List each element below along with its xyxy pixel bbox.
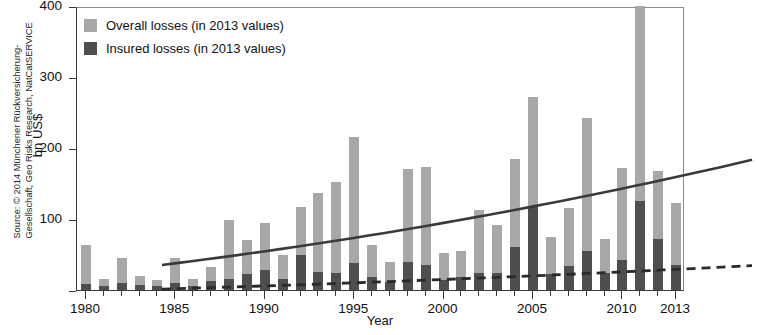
x-tick-minor xyxy=(121,291,122,296)
x-tick-minor xyxy=(460,291,461,296)
x-tick-major xyxy=(174,291,175,299)
y-tick-label: 200 xyxy=(8,140,62,155)
x-tick-minor xyxy=(210,291,211,296)
y-tick xyxy=(69,78,76,79)
legend-label-overall: Overall losses (in 2013 values) xyxy=(106,18,284,33)
x-tick-minor xyxy=(568,291,569,296)
x-tick-minor xyxy=(496,291,497,296)
x-tick-minor xyxy=(317,291,318,296)
insured-trend-line xyxy=(162,266,752,289)
x-tick-minor xyxy=(389,291,390,296)
x-tick-minor xyxy=(282,291,283,296)
legend: Overall losses (in 2013 values) Insured … xyxy=(84,18,286,64)
x-tick-minor xyxy=(246,291,247,296)
x-tick-minor xyxy=(586,291,587,296)
x-tick-minor xyxy=(300,291,301,296)
bar-insured xyxy=(81,284,91,290)
x-tick-major xyxy=(621,291,622,299)
y-tick xyxy=(69,7,76,8)
y-axis-title: bn US$ xyxy=(30,96,45,176)
x-tick-minor xyxy=(604,291,605,296)
x-tick-minor xyxy=(639,291,640,296)
x-tick-minor xyxy=(139,291,140,296)
x-tick-minor xyxy=(657,291,658,296)
x-tick-major xyxy=(264,291,265,299)
bar-overall xyxy=(81,245,91,290)
legend-swatch-overall-icon xyxy=(84,19,97,32)
x-tick-major xyxy=(443,291,444,299)
y-tick xyxy=(69,291,76,292)
y-tick-label: 400 xyxy=(8,0,62,13)
x-tick-major xyxy=(675,291,676,299)
x-tick-major xyxy=(532,291,533,299)
y-tick xyxy=(69,149,76,150)
x-tick-minor xyxy=(371,291,372,296)
x-tick-minor xyxy=(514,291,515,296)
legend-swatch-insured-icon xyxy=(84,42,97,55)
x-tick-major xyxy=(85,291,86,299)
x-tick-minor xyxy=(335,291,336,296)
y-tick-label: 300 xyxy=(8,69,62,84)
bar-insured xyxy=(135,285,145,290)
y-tick-label: 100 xyxy=(8,211,62,226)
x-tick-minor xyxy=(192,291,193,296)
x-tick-minor xyxy=(103,291,104,296)
x-tick-major xyxy=(353,291,354,299)
x-tick-minor xyxy=(550,291,551,296)
y-tick xyxy=(69,220,76,221)
x-tick-minor xyxy=(407,291,408,296)
bar-insured xyxy=(99,286,109,290)
x-tick-minor xyxy=(478,291,479,296)
x-tick-minor xyxy=(425,291,426,296)
x-tick-minor xyxy=(156,291,157,296)
x-tick-minor xyxy=(228,291,229,296)
x-axis-title: Year xyxy=(76,313,684,328)
bar-insured xyxy=(117,283,127,290)
legend-label-insured: Insured losses (in 2013 values) xyxy=(106,41,286,56)
legend-item-insured: Insured losses (in 2013 values) xyxy=(84,41,286,56)
overall-trend-line xyxy=(162,160,752,265)
legend-item-overall: Overall losses (in 2013 values) xyxy=(84,18,286,33)
